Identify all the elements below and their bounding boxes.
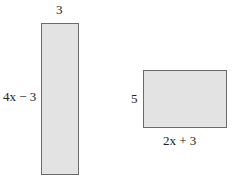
tall-rectangle-height-label: 4x − 3 [3, 90, 36, 104]
wide-rectangle [143, 70, 227, 128]
tall-rectangle [41, 23, 79, 175]
wide-rectangle-height-label: 5 [131, 92, 138, 106]
wide-rectangle-width-label: 2x + 3 [163, 134, 196, 148]
tall-rectangle-width-label: 3 [56, 3, 63, 17]
